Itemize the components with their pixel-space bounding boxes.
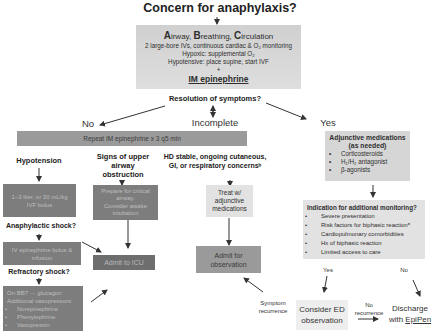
monitoring-box: Indication for additional monitoring? Se… xyxy=(303,200,425,259)
monitoring-list: Severe presentation Risk factors for bip… xyxy=(307,212,410,257)
no-recurrence-label: No recurrence xyxy=(350,301,388,317)
page-title: Concern for anaphylaxis? xyxy=(100,1,340,15)
ivf-bolus-box: 1–3 liter, or 30 mL/kg IVF bolus xyxy=(3,184,76,217)
refractory-shock-question: Refractory shock? xyxy=(4,267,74,276)
branch-incomplete: Incomplete xyxy=(185,117,245,128)
monitoring-no: No xyxy=(396,266,412,274)
ed-observation-box: Consider ED observation xyxy=(296,300,348,330)
resolution-question: Resolution of symptoms? xyxy=(165,94,265,103)
abc-heading: Airway, Breathing, Circulation xyxy=(164,32,274,41)
prepare-airway-box: Prepare for critical airway. Consider aw… xyxy=(93,185,158,220)
admit-icu-box: Admit to ICU xyxy=(93,255,155,270)
abc-line-plus: + xyxy=(217,66,221,74)
adjunctive-list: Corticosteroids H₁/H₂ antagonist β-agoni… xyxy=(325,150,387,174)
im-epinephrine: IM epinephrine xyxy=(189,75,249,83)
branch-no: No xyxy=(78,118,98,129)
abc-line-monitoring: 2 large-bore IVs, continuous cardiac & O… xyxy=(145,42,292,50)
admit-observation-box: Admit for observation xyxy=(196,246,261,273)
vasopressor-list: Norepinephrine Phenylephrine Vasopressin xyxy=(7,305,58,329)
airway-obstruction-label: Signs of upper airway obstruction xyxy=(86,152,160,179)
hd-stable-label: HD stable, ongoing cutaneous, GI, or res… xyxy=(155,152,275,170)
abc-box: Airway, Breathing, Circulation 2 large-b… xyxy=(136,25,301,89)
repeat-epinephrine-box: Repeat IM epinephrine x 3 q5 min xyxy=(17,131,247,146)
symptom-recurrence-label: Symptom recurrence xyxy=(255,299,291,315)
hypotension-label: Hypotension xyxy=(5,156,73,165)
discharge-epipen: Discharge with EpiPen xyxy=(385,303,434,325)
refractory-shock-box: On BB? → glucagon Additional vasopressor… xyxy=(3,286,83,331)
iv-epinephrine-box: IV epinephrine bolus & infusion xyxy=(3,242,81,265)
abc-line-hypotensive: Hypotensive: place supine, start IVF xyxy=(168,58,269,66)
branch-yes: Yes xyxy=(316,117,340,128)
adjunctive-medications-box: Adjunctive medications (as needed) Corti… xyxy=(325,131,410,181)
treat-adjunctive-box: Treat w/ adjunctive medications xyxy=(206,185,253,217)
anaphylactic-shock-question: Anaphylactic shock? xyxy=(0,221,82,230)
abc-line-hypoxic: Hypoxic: supplemental O₂ xyxy=(182,50,254,58)
epipen-link: EpiPen xyxy=(405,315,431,324)
monitoring-yes: Yes xyxy=(318,266,338,274)
